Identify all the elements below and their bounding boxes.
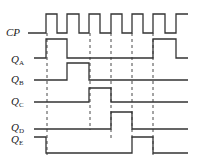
timing-diagram: CP QA QB QC QD QE bbox=[0, 0, 201, 164]
signal-label-qc: QC bbox=[11, 95, 24, 109]
waveform-cp bbox=[28, 14, 188, 33]
signal-qc: QC bbox=[11, 88, 188, 109]
waveform-qd bbox=[34, 112, 188, 129]
signal-label-qa: QA bbox=[11, 53, 24, 67]
signal-qb: QB bbox=[11, 63, 188, 87]
signal-label-qe: QE bbox=[11, 133, 23, 147]
signal-qe: QE bbox=[11, 133, 188, 153]
signal-cp: CP bbox=[6, 14, 188, 38]
signal-label-cp: CP bbox=[6, 26, 20, 38]
signal-label-qb: QB bbox=[11, 73, 24, 87]
waveform-qe bbox=[34, 137, 188, 153]
signal-qd: QD bbox=[11, 112, 188, 135]
signal-qa: QA bbox=[11, 39, 188, 67]
waveform-qc bbox=[34, 88, 188, 102]
